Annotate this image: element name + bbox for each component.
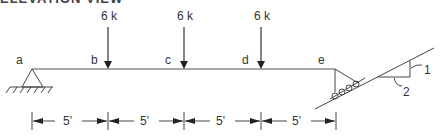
svg-text:6 k: 6 k [177,9,194,23]
point-label-a: a [16,53,23,67]
load-c: 6 k [177,9,194,69]
slope-rise-label: 1 [424,63,431,77]
svg-text:6 k: 6 k [254,9,271,23]
roller-support-e [330,69,365,99]
dim-label-cd: 5' [216,114,225,128]
dim-label-de: 5' [292,114,301,128]
slope-run-label: 2 [403,85,410,99]
point-label-d: d [242,53,249,67]
beam-diagram: a b c d e 6 k 6 k 6 k [0,0,442,138]
load-d: 6 k [254,9,271,69]
pin-support-a [6,69,53,93]
point-label-e: e [318,53,325,67]
dim-label-ab: 5' [63,114,72,128]
dimension-line: 5' 5' 5' 5' [32,112,336,130]
svg-text:6 k: 6 k [101,9,118,23]
point-label-c: c [165,53,171,67]
slope-triangle: 1 2 [378,61,431,99]
inclined-surface [315,48,434,109]
point-label-b: b [91,53,98,67]
dim-label-bc: 5' [140,114,149,128]
load-b: 6 k [101,9,118,69]
